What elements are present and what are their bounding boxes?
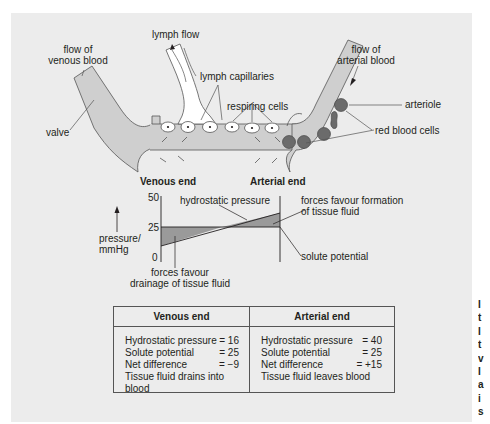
y-tick-25: 25 bbox=[148, 222, 159, 233]
pressure-table: Venous end Hydrostatic pressure = 16 Sol… bbox=[113, 306, 395, 393]
table-row: Hydrostatic pressure = 16 bbox=[125, 335, 239, 347]
y-tick-50: 50 bbox=[148, 192, 159, 203]
venous-column: Venous end Hydrostatic pressure = 16 Sol… bbox=[114, 307, 250, 392]
red-blood-cells-label: red blood cells bbox=[375, 125, 439, 136]
lymph-vessel bbox=[166, 44, 216, 124]
arterial-conclusion: Tissue fluid leaves blood bbox=[261, 371, 394, 383]
venous-end-heading: Venous end bbox=[140, 176, 196, 187]
drainage-label: forces favour drainage of tissue fluid bbox=[125, 267, 235, 289]
table-row: Solute potential = 25 bbox=[125, 347, 239, 359]
venous-flow-label: flow of venous blood bbox=[45, 44, 111, 66]
arterial-flow-label: flow of arterial blood bbox=[333, 44, 399, 66]
lymph-flow-label: lymph flow bbox=[152, 29, 199, 40]
table-row: Solute potential = 25 bbox=[261, 347, 382, 359]
hydrostatic-pressure-label: hydrostatic pressure bbox=[180, 195, 270, 206]
solute-potential-label: solute potential bbox=[301, 251, 368, 262]
venous-column-header: Venous end bbox=[114, 307, 249, 327]
arterial-end-heading: Arterial end bbox=[250, 176, 306, 187]
table-row: Net difference = +15 bbox=[261, 359, 382, 371]
arterial-column: Arterial end Hydrostatic pressure = 40 S… bbox=[250, 307, 394, 392]
clipped-margin-text: I t I t v I a i s bbox=[478, 298, 490, 419]
lymph-capillaries-label: lymph capillaries bbox=[200, 71, 274, 82]
arteriole-label: arteriole bbox=[405, 99, 441, 110]
valve-label: valve bbox=[46, 127, 69, 138]
respiring-cells-label: respiring cells bbox=[227, 101, 288, 112]
y-tick-0: 0 bbox=[152, 252, 158, 263]
venous-conclusion: Tissue fluid drains into blood bbox=[125, 371, 249, 395]
table-row: Hydrostatic pressure = 40 bbox=[261, 335, 382, 347]
venule bbox=[74, 66, 160, 172]
y-axis-label: pressure/ mmHg bbox=[99, 233, 141, 255]
formation-label: forces favour formation of tissue fluid bbox=[301, 195, 403, 217]
table-row: Net difference = −9 bbox=[125, 359, 239, 371]
pressure-graph bbox=[115, 196, 306, 268]
arterial-column-header: Arterial end bbox=[250, 307, 394, 327]
